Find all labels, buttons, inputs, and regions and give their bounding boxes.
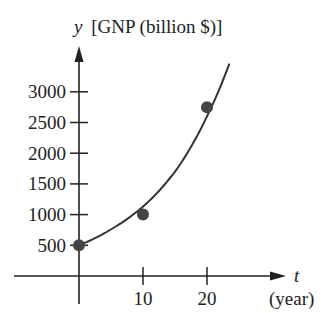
- x-ticks: 1020: [134, 267, 217, 309]
- y-tick-label: 500: [38, 235, 67, 256]
- data-point: [201, 101, 213, 113]
- y-axis-label: y [GNP (billion $)]: [72, 16, 222, 38]
- y-axis-arrow-icon: [75, 46, 84, 62]
- x-axis-variable: t: [294, 265, 300, 286]
- data-points: [73, 101, 213, 251]
- x-tick-label: 20: [198, 288, 217, 309]
- chart-canvas: y [GNP (billion $)] t (year) 50010001500…: [0, 0, 326, 313]
- x-axis-arrow-icon: [270, 272, 286, 281]
- y-axis-unit: [GNP (billion $)]: [91, 16, 222, 38]
- y-tick-label: 1500: [28, 173, 66, 194]
- y-tick-label: 3000: [28, 81, 66, 102]
- y-tick-label: 1000: [28, 204, 66, 225]
- y-axis-variable: y: [72, 16, 83, 37]
- y-tick-label: 2500: [28, 112, 66, 133]
- data-point: [137, 209, 149, 221]
- x-tick-label: 10: [134, 288, 153, 309]
- fitted-curve: [79, 64, 229, 246]
- y-tick-label: 2000: [28, 143, 66, 164]
- data-point: [73, 239, 85, 251]
- x-axis-unit: (year): [269, 288, 314, 310]
